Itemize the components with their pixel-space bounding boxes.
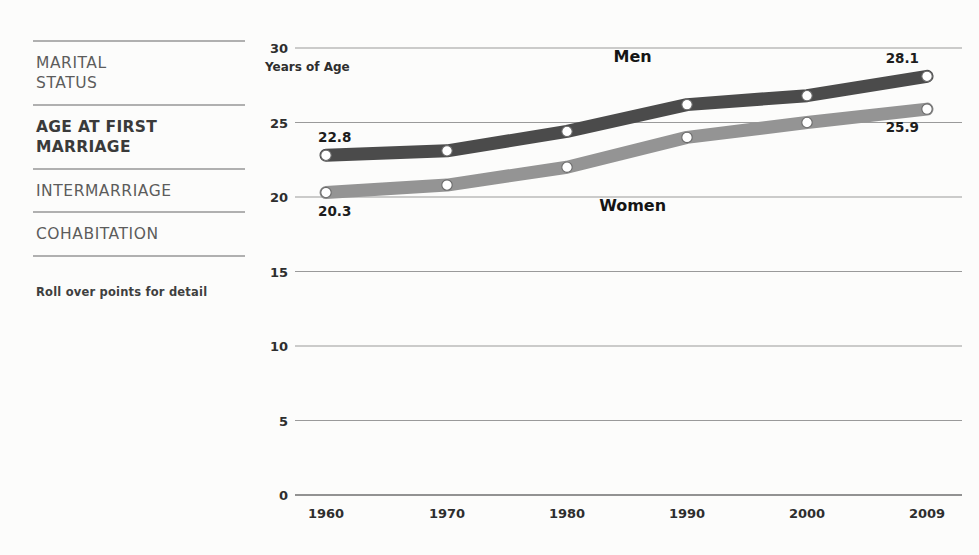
x-axis-tick-labels: 196019701980199020002009 <box>308 506 945 521</box>
series-label-women: Women <box>599 196 666 215</box>
y-tick-label-30: 30 <box>270 41 288 56</box>
y-tick-label-5: 5 <box>279 414 288 429</box>
x-tick-label-2000: 2000 <box>789 506 825 521</box>
sidebar-item-intermarriage[interactable]: INTERMARRIAGE <box>33 168 245 211</box>
value-label-men-1960: 22.8 <box>318 129 351 145</box>
data-point-women-1960[interactable] <box>321 187 331 197</box>
data-point-women-2009[interactable] <box>922 104 932 114</box>
y-tick-label-20: 20 <box>270 190 288 205</box>
y-tick-label-25: 25 <box>270 116 288 131</box>
series-lines-group <box>326 76 927 192</box>
series-line-men <box>326 76 927 155</box>
data-point-men-1960[interactable] <box>321 150 331 160</box>
sidebar-nav: MARITAL STATUS AGE AT FIRST MARRIAGE INT… <box>33 40 245 299</box>
y-tick-label-0: 0 <box>279 488 288 503</box>
x-tick-label-1960: 1960 <box>308 506 344 521</box>
value-label-men-2009: 28.1 <box>886 50 919 66</box>
data-point-men-1990[interactable] <box>682 99 692 109</box>
series-line-women <box>326 109 927 192</box>
data-point-men-1980[interactable] <box>562 126 572 136</box>
value-label-women-2009: 25.9 <box>886 119 919 135</box>
y-tick-label-10: 10 <box>270 339 288 354</box>
data-point-women-2000[interactable] <box>802 117 812 127</box>
series-label-men: Men <box>614 47 652 66</box>
value-label-women-1960: 20.3 <box>318 203 351 219</box>
y-axis-caption: Years of Age <box>264 60 350 74</box>
y-tick-label-15: 15 <box>270 265 288 280</box>
x-tick-label-1970: 1970 <box>429 506 465 521</box>
data-point-men-2000[interactable] <box>802 90 812 100</box>
sidebar-item-marital-status[interactable]: MARITAL STATUS <box>33 40 245 104</box>
data-point-women-1990[interactable] <box>682 132 692 142</box>
gridlines-group <box>295 48 962 495</box>
sidebar-divider <box>33 255 245 257</box>
value-labels-group: 22.828.120.325.9 <box>318 50 919 218</box>
y-axis-tick-labels: 051015202530 <box>270 41 288 503</box>
x-tick-label-2009: 2009 <box>909 506 945 521</box>
sidebar-item-age-at-first-marriage[interactable]: AGE AT FIRST MARRIAGE <box>33 104 245 168</box>
data-point-men-2009[interactable] <box>922 71 932 81</box>
data-point-men-1970[interactable] <box>442 146 452 156</box>
data-point-women-1970[interactable] <box>442 180 452 190</box>
rollover-hint-text: Roll over points for detail <box>33 285 245 299</box>
x-tick-label-1990: 1990 <box>669 506 705 521</box>
sidebar-item-cohabitation[interactable]: COHABITATION <box>33 211 245 254</box>
data-point-women-1980[interactable] <box>562 162 572 172</box>
series-name-labels-group: MenWomen <box>599 47 666 215</box>
infographic-root: MARITAL STATUS AGE AT FIRST MARRIAGE INT… <box>0 0 979 555</box>
series-markers-group <box>321 71 932 198</box>
x-tick-label-1980: 1980 <box>549 506 585 521</box>
